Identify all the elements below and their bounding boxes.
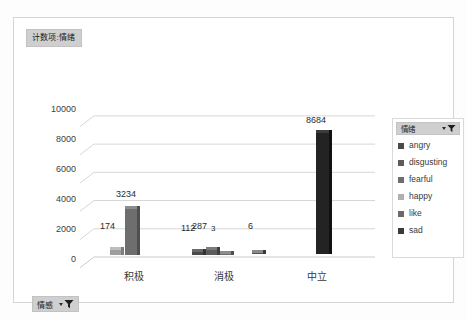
bar-angry-negative[interactable]	[192, 252, 203, 255]
data-label-happy-positive: 174	[100, 221, 115, 231]
chart-title-slicer[interactable]: 计数项:情绪	[26, 29, 82, 47]
bar-top-face	[252, 250, 263, 253]
bottom-slicer-label: 情感	[37, 299, 53, 310]
bar-disgusting-negative[interactable]	[206, 250, 217, 255]
bar-top-face	[125, 206, 137, 209]
legend-swatch-icon	[398, 143, 404, 149]
y-tick-0: 0	[28, 254, 76, 264]
chart-frame: 计数项:情绪 10000 8000 6000 4000 2000 0	[13, 17, 454, 303]
legend-swatch-icon	[398, 228, 404, 234]
legend-item-label: fearful	[409, 175, 433, 184]
legend-swatch-icon	[398, 160, 404, 166]
y-tick-4000: 4000	[28, 194, 76, 204]
y-axis: 10000 8000 6000 4000 2000 0	[28, 104, 76, 264]
legend-swatch-icon	[398, 194, 404, 200]
data-label-like-positive: 3234	[116, 189, 136, 199]
chevron-down-icon[interactable]	[442, 127, 446, 130]
x-tick-positive: 积极	[109, 268, 159, 283]
chevron-down-icon[interactable]	[59, 303, 63, 306]
legend-item-disgusting[interactable]: disgusting	[398, 154, 463, 171]
legend-header[interactable]: 情绪	[396, 122, 460, 135]
bar-sad-neutral[interactable]	[316, 133, 329, 254]
y-tick-2000: 2000	[28, 224, 76, 234]
bar-happy-positive[interactable]	[110, 250, 121, 255]
legend-item-label: sad	[409, 226, 423, 235]
legend-item-label: angry	[409, 141, 430, 150]
bar-top-face	[192, 249, 203, 252]
y-tick-8000: 8000	[28, 134, 76, 144]
chart-screenshot: 计数项:情绪 10000 8000 6000 4000 2000 0	[0, 0, 467, 320]
legend-item-label: happy	[409, 192, 432, 201]
bar-side-face	[263, 250, 266, 254]
chart-title-label: 计数项:情绪	[32, 33, 75, 42]
bar-top-face	[110, 247, 121, 250]
legend-item-label: like	[409, 209, 422, 218]
bar-top-face	[316, 130, 329, 133]
y-tick-6000: 6000	[28, 164, 76, 174]
data-label-disgusting-negative: 287	[192, 221, 207, 231]
bar-side-face	[137, 206, 140, 255]
legend-swatch-icon	[398, 177, 404, 183]
legend-panel: 情绪 angry disgusting	[392, 118, 464, 258]
bar-side-face	[121, 247, 124, 255]
y-tick-10000: 10000	[28, 104, 76, 114]
plot-area: 174 3234 112 287 3 6 8684	[80, 111, 375, 257]
x-axis: 积极 消极 中立	[74, 268, 384, 288]
bar-top-face	[206, 247, 217, 250]
legend-item-angry[interactable]: angry	[398, 137, 463, 154]
bar-sad-negative[interactable]	[252, 253, 263, 254]
legend-item-like[interactable]: like	[398, 205, 463, 222]
funnel-icon[interactable]	[64, 299, 74, 309]
bottom-slicer-icons[interactable]	[59, 299, 74, 309]
bar-fearful-negative[interactable]	[220, 254, 231, 255]
legend-item-sad[interactable]: sad	[398, 222, 463, 239]
legend-item-fearful[interactable]: fearful	[398, 171, 463, 188]
bottom-slicer-button[interactable]: 情感	[32, 296, 79, 312]
x-tick-neutral: 中立	[292, 268, 342, 283]
bar-top-face	[220, 251, 231, 254]
bar-side-face	[329, 130, 332, 254]
legend-item-label: disgusting	[409, 158, 447, 167]
legend-header-label: 情绪	[397, 123, 415, 134]
funnel-icon[interactable]	[447, 124, 456, 133]
data-label-fearful-negative: 3	[211, 224, 215, 234]
bar-like-positive[interactable]	[125, 209, 137, 255]
legend-header-icons[interactable]	[442, 124, 456, 133]
legend-item-happy[interactable]: happy	[398, 188, 463, 205]
bar-side-face	[231, 251, 234, 255]
legend-items: angry disgusting fearful happy like	[398, 137, 463, 239]
x-tick-negative: 消极	[199, 268, 249, 283]
data-label-sad-negative: 6	[248, 221, 253, 231]
data-label-sad-neutral: 8684	[306, 115, 326, 125]
legend-swatch-icon	[398, 211, 404, 217]
